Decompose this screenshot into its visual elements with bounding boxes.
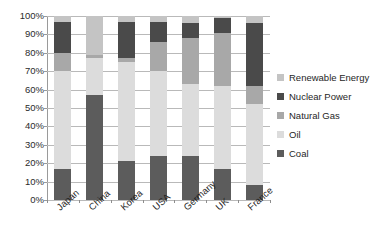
bar-segment [182, 84, 199, 156]
y-axis-tick-label: 20% [2, 158, 44, 167]
bar-column [182, 16, 199, 200]
bar-segment [54, 71, 71, 169]
legend-item[interactable]: Nuclear Power [277, 87, 381, 106]
legend-swatch-icon [277, 150, 284, 157]
y-axis-tick-label: 100% [2, 11, 44, 20]
x-axis-tick-mark [143, 200, 144, 203]
legend-item[interactable]: Oil [277, 125, 381, 144]
y-axis-tick-label: 40% [2, 121, 44, 130]
bar-segment [182, 23, 199, 38]
bar-segment [150, 71, 167, 156]
bar-segment [54, 53, 71, 71]
y-axis-tick-label: 80% [2, 48, 44, 57]
legend-swatch-icon [277, 74, 284, 81]
x-axis-tick-mark [174, 200, 175, 203]
legend-item-label: Renewable Energy [289, 73, 369, 83]
x-axis-tick-mark [79, 200, 80, 203]
bar-segment [118, 62, 135, 161]
y-axis-tick-label: 10% [2, 177, 44, 186]
bar-column [86, 16, 103, 200]
bar-column [54, 16, 71, 200]
legend-swatch-icon [277, 93, 284, 100]
bar-segment [246, 104, 263, 185]
bar-segment [246, 23, 263, 86]
x-axis-tick-mark [206, 200, 207, 203]
bar-segment [214, 18, 231, 33]
y-axis-tick-label: 50% [2, 103, 44, 112]
bar-segment [54, 16, 71, 22]
legend-item-label: Nuclear Power [289, 92, 351, 102]
bar-segment [118, 58, 135, 62]
bar-segment [54, 22, 71, 53]
legend-item[interactable]: Renewable Energy [277, 68, 381, 87]
bar-segment [246, 16, 263, 23]
chart-legend: Renewable EnergyNuclear PowerNatural Gas… [277, 68, 381, 163]
bar-segment [86, 16, 103, 55]
legend-item[interactable]: Natural Gas [277, 106, 381, 125]
x-axis-tick-mark [238, 200, 239, 203]
legend-item[interactable]: Coal [277, 144, 381, 163]
bar-segment [214, 86, 231, 169]
legend-item-label: Natural Gas [289, 111, 340, 121]
bar-column [246, 16, 263, 200]
bar-segment [182, 16, 199, 23]
y-axis-tick-label: 90% [2, 29, 44, 38]
bar-column [118, 16, 135, 200]
bar-column [214, 16, 231, 200]
x-axis-tick-mark [47, 200, 48, 203]
legend-swatch-icon [277, 112, 284, 119]
bar-segment [150, 42, 167, 71]
bar-column [150, 16, 167, 200]
bar-segment [246, 86, 263, 104]
y-axis-tick-label: 70% [2, 66, 44, 75]
x-axis-tick-mark [111, 200, 112, 203]
y-axis-tick-label: 30% [2, 140, 44, 149]
bar-segment [214, 16, 231, 18]
legend-swatch-icon [277, 131, 284, 138]
bar-segment [118, 16, 135, 22]
bar-segment [150, 16, 167, 22]
plot-area [47, 16, 270, 200]
bar-segment [182, 38, 199, 84]
stacked-bar-chart: 100%90%80%70%60%50%40%30%20%10%0% JapanC… [0, 0, 382, 228]
bar-segment [86, 95, 103, 200]
x-axis-tick-mark [270, 200, 271, 203]
bar-segment [118, 22, 135, 59]
bar-segment [150, 22, 167, 42]
bar-segment [86, 58, 103, 95]
bar-segment [214, 33, 231, 86]
legend-item-label: Coal [289, 149, 309, 159]
x-axis: JapanChinaKoreaUSAGermanyUKFrance [0, 200, 290, 228]
y-axis-tick-label: 60% [2, 85, 44, 94]
y-axis: 100%90%80%70%60%50%40%30%20%10%0% [0, 16, 44, 201]
legend-item-label: Oil [289, 130, 301, 140]
bar-segment [86, 55, 103, 59]
